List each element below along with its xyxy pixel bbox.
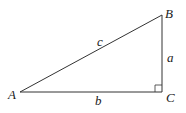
side-label-c: c — [97, 34, 103, 49]
right-angle-marker — [155, 85, 162, 92]
vertex-label-c-point: C — [166, 90, 175, 105]
right-triangle-diagram: A B C c a b — [0, 0, 186, 113]
triangle-outline — [20, 15, 162, 92]
side-label-b: b — [95, 93, 102, 108]
vertex-label-b-point: B — [165, 6, 173, 21]
vertex-label-a-point: A — [7, 87, 16, 102]
side-label-a: a — [167, 50, 174, 65]
